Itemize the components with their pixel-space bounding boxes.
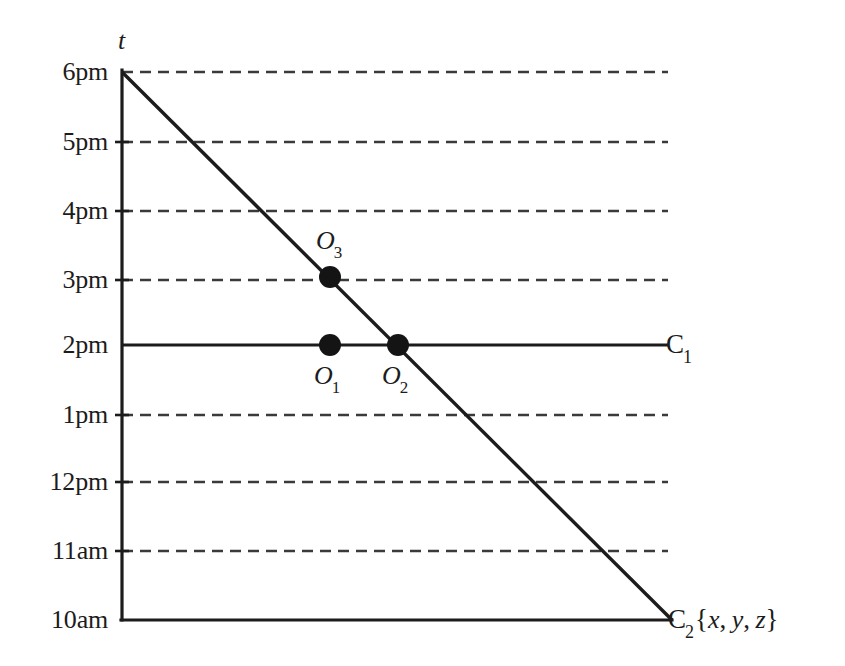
curve-label-c2-comma-1: , [720,604,727,634]
y-tick-label-1pm: 1pm [0,402,108,428]
y-tick-label-10am: 10am [0,607,108,633]
curve-label-c2-comma-2: , [743,604,750,634]
y-tick-label-12pm: 12pm [0,469,108,495]
gridlines [122,72,668,551]
curve-label-c2-var-z: z [755,605,765,634]
curve-label-c2-base: C [668,604,686,634]
y-axis-variable-label: t [118,28,125,54]
marker-label-o3-base: O [316,226,335,255]
marker-label-o1-subscript: 1 [332,378,341,397]
curve-label-c2-var-y: y [732,605,744,634]
marker-label-o3-subscript: 3 [334,243,343,262]
curve-label-c1-base: C [666,329,684,359]
marker-o2 [387,334,409,356]
marker-label-o3: O3 [316,228,343,258]
marker-label-o1-base: O [314,361,333,390]
y-tick-label-6pm: 6pm [0,59,108,85]
y-tick-label-3pm: 3pm [0,267,108,293]
plot-canvas [0,0,845,666]
marker-label-o1: O1 [314,363,341,393]
y-tick-label-11am: 11am [0,538,108,564]
curve-label-c1-subscript: 1 [683,347,692,367]
y-tick-label-2pm: 2pm [0,332,108,358]
marker-label-o2-subscript: 2 [400,378,409,397]
curve-label-c1: C1 [666,331,693,362]
y-tick-label-4pm: 4pm [0,198,108,224]
curve-label-c2-var-x: x [708,605,720,634]
timeline-figure: t 6pm 5pm 4pm 3pm 2pm 1pm 12pm 11am 10am… [0,0,845,666]
marker-o3 [319,266,341,288]
marker-o1 [319,334,341,356]
marker-label-o2: O2 [382,363,409,393]
marker-label-o2-base: O [382,361,401,390]
curve-label-c2-subscript: 2 [685,622,694,642]
y-tick-label-5pm: 5pm [0,129,108,155]
curve-label-c2: C2{x, y, z} [668,606,778,637]
curve-label-c2-close-brace: } [766,604,779,634]
curve-label-c2-open-brace: { [695,604,708,634]
